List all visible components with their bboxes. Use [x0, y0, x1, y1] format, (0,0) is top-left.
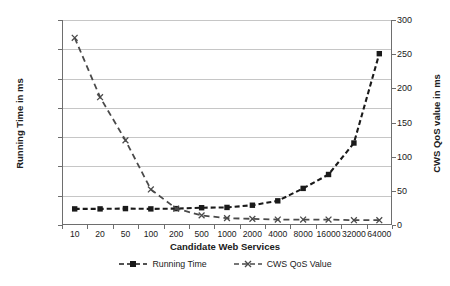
y-axis-right-tick-label: 100	[397, 152, 450, 162]
y-axis-right-tick-label: 0	[397, 220, 450, 230]
x-axis-tick-mark	[87, 225, 88, 229]
legend-item[interactable]: Running Time	[118, 259, 206, 269]
series-layer	[62, 20, 392, 225]
series-1	[72, 51, 382, 212]
data-point-marker	[148, 187, 154, 193]
x-axis-tick-mark	[164, 225, 165, 229]
data-point-marker	[148, 206, 153, 211]
data-point-marker	[275, 198, 280, 203]
x-axis-tick-mark	[214, 225, 215, 229]
series-2	[72, 35, 382, 223]
y-axis-right-tick-mark	[392, 191, 396, 192]
data-point-marker	[224, 205, 229, 210]
series-line	[75, 38, 380, 220]
x-axis-tick-mark	[189, 225, 190, 229]
data-point-marker	[72, 206, 77, 211]
chart-legend: Running TimeCWS QoS Value	[0, 259, 450, 269]
x-axis-tick-mark	[240, 225, 241, 229]
data-point-marker	[351, 140, 356, 145]
data-point-marker	[250, 203, 255, 208]
y-axis-right-tick-label: 150	[397, 118, 450, 128]
y-axis-right-tick-label: 200	[397, 83, 450, 93]
y-axis-right-tick-mark	[392, 88, 396, 89]
x-axis-tick-mark	[62, 225, 63, 229]
x-axis-tick-mark	[341, 225, 342, 229]
data-point-marker	[97, 206, 102, 211]
x-axis-tick-mark	[138, 225, 139, 229]
chart-container: Running Time in ms CWS QoS value in ms C…	[0, 0, 450, 286]
x-axis-tick-mark	[392, 225, 393, 229]
y-axis-title-left: Running Time in ms	[14, 64, 25, 184]
x-axis-tick-label: 64000	[355, 229, 403, 239]
y-axis-right-tick-label: 50	[397, 186, 450, 196]
data-point-marker	[123, 206, 128, 211]
data-point-marker	[123, 137, 129, 143]
x-axis-tick-mark	[113, 225, 114, 229]
legend-label: CWS QoS Value	[267, 259, 332, 269]
data-point-marker	[300, 186, 305, 191]
data-point-marker	[377, 51, 382, 56]
y-axis-right-tick-label: 250	[397, 49, 450, 59]
y-axis-right-tick-mark	[392, 123, 396, 124]
y-axis-right-tick-label: 300	[397, 15, 450, 25]
x-axis-title: Candidate Web Services	[0, 241, 450, 252]
legend-item[interactable]: CWS QoS Value	[233, 259, 332, 269]
y-axis-right-tick-mark	[392, 157, 396, 158]
data-point-marker	[199, 205, 204, 210]
x-axis-tick-mark	[367, 225, 368, 229]
legend-label: Running Time	[152, 259, 206, 269]
legend-swatch-icon	[118, 259, 148, 269]
x-axis-tick-mark	[316, 225, 317, 229]
x-axis-tick-mark	[265, 225, 266, 229]
data-point-marker	[326, 172, 331, 177]
y-axis-right-tick-mark	[392, 54, 396, 55]
legend-swatch-icon	[233, 259, 263, 269]
x-axis-tick-mark	[290, 225, 291, 229]
y-axis-right-tick-mark	[392, 20, 396, 21]
